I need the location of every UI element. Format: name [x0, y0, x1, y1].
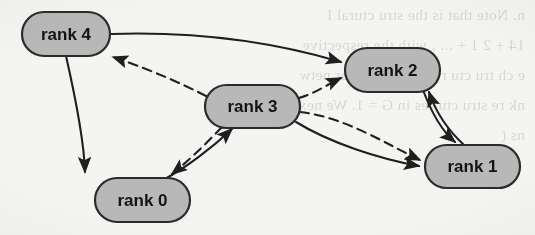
edge-rank4-to-rank2 [111, 34, 341, 62]
edge-rank3-to-rank2 [299, 78, 341, 98]
edge-rank3-to-rank0 [172, 127, 222, 174]
edge-rank3-to-rank4 [113, 57, 206, 96]
figure-canvas: n. Note that is the stru ctural I 14 + 2… [0, 0, 535, 235]
node-rank0[interactable] [95, 178, 190, 222]
node-rank3[interactable] [205, 85, 300, 128]
edge-rank1-to-rank2 [429, 92, 464, 145]
edge-rank4-to-rank0 [66, 56, 85, 172]
node-rank1[interactable] [425, 145, 520, 188]
directed-graph [0, 0, 535, 235]
node-rank2[interactable] [345, 48, 440, 92]
edge-rank3-to-rank1-dashed [300, 112, 420, 160]
node-rank4[interactable] [22, 12, 110, 56]
